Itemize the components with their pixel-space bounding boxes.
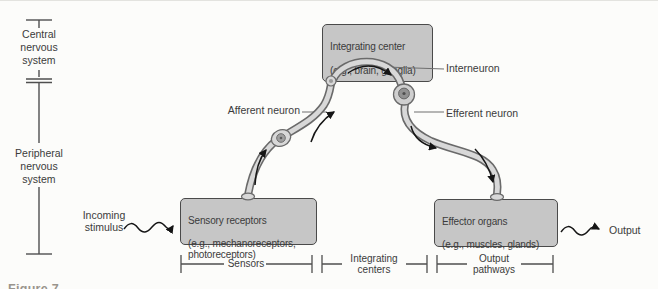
incoming-stimulus-arrow: [124, 223, 173, 233]
interneuron-label: Interneuron: [446, 62, 500, 75]
sensors-bracket-label: Sensors: [216, 259, 276, 270]
output-label: Output: [609, 224, 641, 237]
nervous-system-diagram: Central nervous system Peripheral nervou…: [0, 0, 658, 289]
cns-pns-divider: [26, 79, 52, 83]
effector-organs-box: Effector organs (e.g., muscles, glands): [434, 199, 558, 247]
efferent-soma-nucleus: [399, 88, 410, 99]
central-nervous-system-label: Central nervous system: [11, 28, 67, 67]
effector-organs-subtitle: (e.g., muscles, glands): [442, 239, 550, 251]
output-arrow: [561, 227, 599, 235]
integrating-center-box: Integrating center (e.g., brain, ganglia…: [322, 24, 433, 82]
incoming-stimulus-label: Incoming stimulus: [78, 210, 130, 233]
efferent-neuron-label: Efferent neuron: [446, 107, 518, 120]
afferent-soma-nucleolus: [280, 137, 283, 140]
afferent-soma-nucleus: [277, 134, 286, 143]
sensory-receptors-box: Sensory receptors (e.g., mechanoreceptor…: [180, 198, 317, 245]
output-pathways-bracket-label: Output pathways: [459, 254, 529, 275]
integrating-center-subtitle: (e.g., brain, ganglia): [330, 65, 425, 77]
sensory-receptors-title: Sensory receptors: [188, 215, 309, 227]
figure-caption-cropped: Figure 7: [8, 282, 59, 289]
integrating-center-title: Integrating center: [330, 41, 425, 53]
signal-arrow-afferent-lower: [255, 150, 266, 185]
afferent-axon: [248, 84, 331, 195]
afferent-soma: [269, 127, 294, 150]
peripheral-nervous-system-label: Peripheral nervous system: [11, 147, 67, 186]
afferent-neuron-label: Afferent neuron: [220, 104, 300, 117]
integrating-centers-bracket-label: Integrating centers: [339, 254, 409, 275]
signal-arrow-efferent-lower: [475, 149, 493, 182]
signal-arrow-afferent-upper: [311, 112, 334, 142]
afferent-soma-body: [269, 127, 294, 150]
afferent-axon-outline: [248, 84, 331, 195]
signal-arrow-efferent-upper: [411, 126, 436, 148]
efferent-soma-nucleolus: [402, 92, 405, 95]
effector-organs-title: Effector organs: [442, 216, 550, 228]
